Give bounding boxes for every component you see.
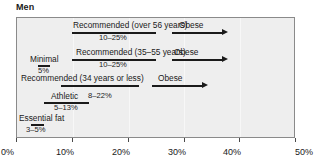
row-label-athletic: Athletic: [51, 92, 78, 101]
arrow-shaft: [172, 59, 223, 61]
xtick-mark-20: [128, 138, 129, 142]
arrow-head: [222, 56, 228, 62]
row-obese-arrow-over-56: [172, 29, 228, 36]
row-range-over-56: 10–25%: [99, 34, 127, 42]
arrow-shaft: [152, 85, 203, 87]
row-label-34-or-less: Recommended (34 years or less): [21, 74, 144, 83]
arrow-shaft: [172, 32, 223, 34]
xtick-mark-0: [16, 138, 17, 142]
arrow-head: [222, 29, 228, 35]
xtick-label-40: 40%: [223, 147, 241, 157]
row-range-35-55: 10–25%: [99, 61, 127, 69]
row-range-athletic: 5–13%: [54, 104, 78, 112]
xtick-mark-50: [295, 138, 296, 142]
xtick-mark-30: [184, 138, 185, 142]
row-bar-34-or-less: [61, 85, 139, 87]
row-range-athletic-inline: 8–22%: [88, 92, 112, 100]
xtick-label-50: 50%: [295, 147, 313, 157]
xtick-label-10: 10%: [56, 147, 74, 157]
xtick-label-30: 30%: [168, 147, 186, 157]
row-label-essential-fat: Essential fat: [19, 114, 64, 123]
page-title: Men: [16, 2, 34, 12]
xtick-mark-40: [239, 138, 240, 142]
xtick-label-20: 20%: [112, 147, 130, 157]
body-fat-chart: Men Recommended (over 56 years) 10–25% O…: [0, 0, 322, 167]
xtick-label-0: 0%: [1, 147, 14, 157]
row-label-over-56: Recommended (over 56 years): [73, 21, 187, 30]
row-label-minimal: Minimal: [30, 55, 59, 64]
row-obese-arrow-35-55: [172, 56, 228, 63]
xtick-mark-10: [72, 138, 73, 142]
row-range-essential-fat: 3–5%: [26, 126, 45, 134]
row-label-35-55: Recommended (35–55 years): [76, 48, 186, 57]
row-obese-arrow-34-or-less: [152, 82, 208, 89]
arrow-head: [202, 82, 208, 88]
gridline-40: [240, 18, 241, 137]
